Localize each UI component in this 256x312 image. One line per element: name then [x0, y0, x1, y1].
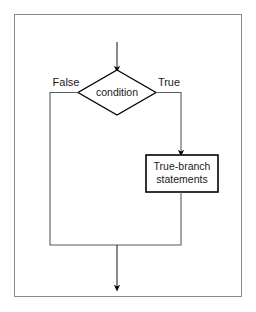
true-branch-process-label-line1: True-branch — [154, 160, 211, 172]
false-branch-label: False — [53, 76, 80, 88]
true-branch-label: True — [158, 76, 180, 88]
true-branch-process-label-line2: statements — [156, 173, 207, 185]
condition-decision-label: condition — [96, 86, 138, 98]
flowchart-figure: condition False True True-branch stateme… — [0, 0, 256, 312]
flowchart-canvas: condition False True True-branch stateme… — [0, 0, 256, 312]
